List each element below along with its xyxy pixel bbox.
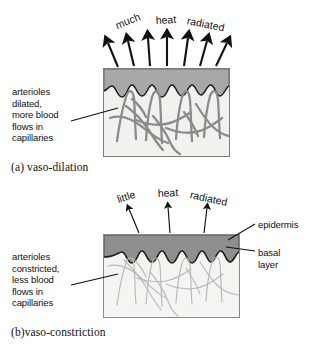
panel-b-artwork [71,207,255,318]
epidermis-leader-line [228,224,255,240]
panel-a-heat-word-heat: heat [155,13,176,26]
panel-b-left-label: arterioles constricted, less blood flows… [12,251,98,309]
panel-a-caption: (a) vaso-dilation [11,161,88,173]
panel-b-heat-word-heat: heat [157,186,178,199]
epidermis-label: epidermis [258,219,298,231]
panel-a-heat-arrows [108,37,227,67]
panel-a-left-label: arterioles dilated, more blood flows in … [12,86,98,144]
figure-root: arterioles dilated, more blood flows in … [0,0,324,356]
panel-b-heat-arrows [129,207,207,233]
basal-layer-label: basal layer [258,247,314,270]
panel-b-caption: (b)vaso-constriction [11,326,106,338]
